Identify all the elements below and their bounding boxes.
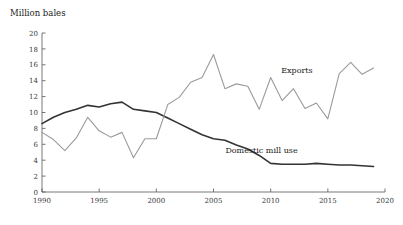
line-chart: Million bales 02468101214161820 19901995… (0, 0, 403, 225)
y-tick-label: 20 (29, 30, 38, 38)
y-tick-label: 12 (29, 93, 38, 101)
y-tick-label: 18 (29, 46, 38, 54)
y-axis-ticks: 02468101214161820 (29, 30, 45, 197)
y-tick-label: 16 (29, 61, 38, 69)
series-label-domestic-mill-use: Domestic mill use (225, 146, 298, 155)
x-tick-label: 2005 (205, 197, 223, 205)
x-tick-label: 1995 (90, 197, 108, 205)
x-tick-label: 2015 (319, 197, 337, 205)
y-tick-label: 8 (34, 125, 38, 133)
series-label-exports: Exports (281, 66, 312, 75)
chart-container: Million bales 02468101214161820 19901995… (0, 0, 403, 225)
series-line-domestic-mill-use (42, 102, 374, 166)
y-tick-label: 14 (29, 77, 38, 85)
y-tick-label: 6 (34, 141, 39, 149)
series-paths (42, 54, 374, 166)
y-tick-label: 10 (29, 109, 38, 117)
y-tick-label: 4 (34, 157, 39, 165)
series-annotations: Domestic mill useExports (225, 66, 312, 155)
x-tick-label: 2020 (376, 197, 394, 205)
x-tick-label: 2000 (147, 197, 165, 205)
x-tick-label: 2010 (262, 197, 280, 205)
y-tick-label: 2 (34, 173, 38, 181)
y-axis-title: Million bales (10, 8, 66, 18)
x-axis-ticks: 1990199520002005201020152020 (33, 189, 394, 206)
y-tick-label: 0 (34, 189, 38, 197)
x-tick-label: 1990 (33, 197, 51, 205)
